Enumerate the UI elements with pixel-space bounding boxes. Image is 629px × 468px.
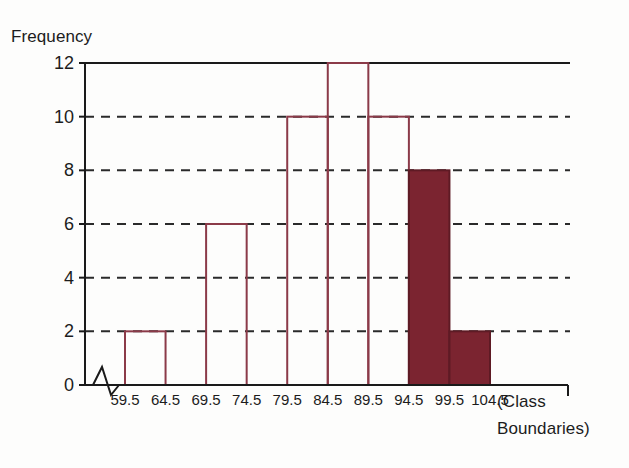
bars-group [125,63,490,385]
axis-break-icon [93,367,119,395]
histogram-bar [125,331,166,385]
histogram-bar [449,331,490,385]
histogram-bar [368,117,409,385]
plot-area [0,0,629,468]
histogram-bar [287,117,328,385]
histogram-chart: Frequency (Class Boundaries) 024681012 5… [0,0,629,468]
histogram-bar [409,170,450,385]
axes-group [79,63,568,396]
histogram-bar [206,224,247,385]
